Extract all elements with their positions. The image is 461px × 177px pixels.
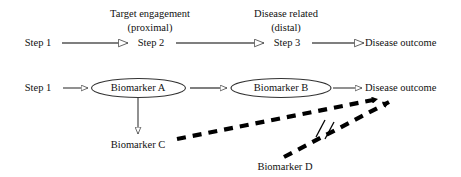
node-biomarker-d-label: Biomarker D (257, 162, 312, 173)
dashed-arrow-biomarker-d-to-disease-outcome (284, 102, 389, 157)
node-bottom-step-1: Step 1 (25, 83, 52, 94)
node-top-step-3: Step 3 (274, 38, 301, 49)
node-bottom-disease-outcome: Disease outcome (365, 83, 436, 94)
annotation-disease-related-line2: (distal) (271, 23, 301, 34)
annotation-target-engagement-line1: Target engagement (110, 9, 190, 20)
dashed-arrow-biomarker-c-to-disease-outcome (177, 99, 378, 139)
diagram-canvas: Target engagement (proximal) Disease rel… (0, 0, 461, 177)
node-top-step-1: Step 1 (25, 38, 52, 49)
node-biomarker-a-label: Biomarker A (111, 83, 166, 94)
node-biomarker-b-label: Biomarker B (254, 83, 309, 94)
dashed-arrows (177, 99, 389, 157)
node-top-step-2: Step 2 (138, 38, 165, 49)
annotation-target-engagement-line2: (proximal) (128, 23, 173, 34)
annotation-disease-related-line1: Disease related (254, 9, 318, 20)
blocked-path-marker-icon (316, 120, 334, 139)
node-biomarker-c-label: Biomarker C (111, 140, 166, 151)
node-top-disease-outcome: Disease outcome (365, 38, 436, 49)
